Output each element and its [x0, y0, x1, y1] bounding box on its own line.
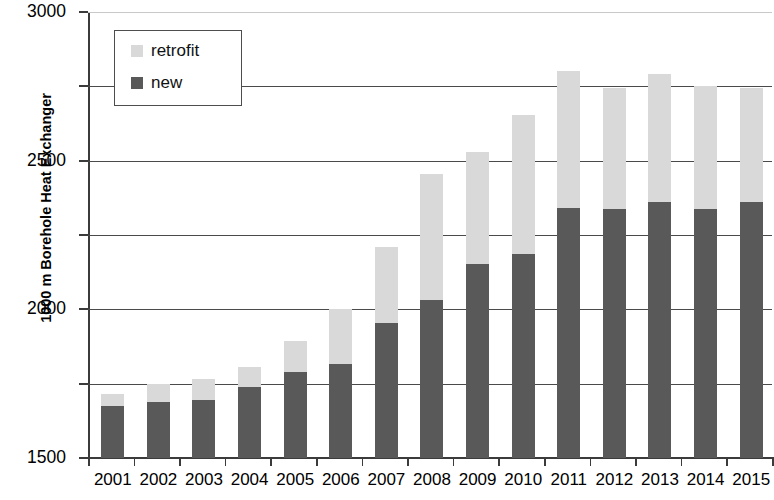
x-tick-2003	[179, 457, 181, 466]
bar-segment-retrofit-2010	[512, 115, 535, 254]
bar-segment-retrofit-2003	[192, 379, 215, 400]
bar-slot-2011	[544, 12, 590, 458]
bar-segment-retrofit-2004	[238, 367, 261, 388]
bar-segment-retrofit-2002	[147, 384, 170, 402]
bar-segment-new-2007	[375, 323, 398, 458]
x-axis-label-2008: 2008	[413, 470, 451, 490]
bar-slot-2006	[316, 12, 362, 458]
stacked-bar-2003[interactable]	[192, 379, 215, 458]
stacked-bar-2007[interactable]	[375, 247, 398, 458]
x-tick-2004	[225, 457, 227, 466]
y-tick-label-3000: 3000	[27, 1, 66, 22]
x-axis-label-2006: 2006	[322, 470, 360, 490]
bar-segment-retrofit-2005	[284, 341, 307, 372]
bar-segment-new-2013	[648, 202, 671, 458]
bar-segment-retrofit-2007	[375, 247, 398, 324]
stacked-bar-2008[interactable]	[420, 174, 443, 458]
x-tick-2011	[544, 457, 546, 466]
x-axis-label-2009: 2009	[459, 470, 497, 490]
stacked-bar-2001[interactable]	[101, 394, 124, 458]
bar-segment-retrofit-2012	[603, 88, 626, 209]
legend-item-new[interactable]: new	[131, 74, 182, 91]
bar-segment-new-2003	[192, 400, 215, 458]
bar-slot-2014	[681, 12, 727, 458]
x-axis-label-2001: 2001	[94, 470, 132, 490]
bar-segment-new-2014	[694, 209, 717, 458]
bar-slot-2012	[590, 12, 636, 458]
stacked-bar-2010[interactable]	[512, 115, 535, 458]
chart-root: 1000 m Borehole Heat Exchanger 050010001…	[0, 0, 774, 500]
legend-label-new: new	[151, 74, 182, 91]
y-tick-1500: 1500	[79, 234, 88, 236]
chart-legend: retrofit new	[114, 30, 242, 106]
stacked-bar-2005[interactable]	[284, 341, 307, 458]
x-axis-label-2014: 2014	[687, 470, 725, 490]
bar-segment-new-2001	[101, 406, 124, 458]
y-tick-1000: 1000	[79, 308, 88, 310]
x-axis-label-2010: 2010	[504, 470, 542, 490]
stacked-bar-2012[interactable]	[603, 88, 626, 458]
legend-label-retrofit: retrofit	[151, 42, 199, 59]
x-axis-label-2007: 2007	[367, 470, 405, 490]
bar-slot-2013	[635, 12, 681, 458]
y-tick-label-2000: 2000	[27, 298, 66, 319]
bar-segment-new-2008	[420, 300, 443, 458]
stacked-bar-2002[interactable]	[147, 384, 170, 458]
y-tick-2500: 2500	[79, 85, 88, 87]
x-axis-label-2013: 2013	[641, 470, 679, 490]
bar-segment-new-2006	[329, 364, 352, 458]
x-axis-label-2011: 2011	[551, 470, 588, 490]
bar-segment-new-2015	[740, 202, 763, 458]
bar-slot-2005	[270, 12, 316, 458]
bar-slot-2009	[453, 12, 499, 458]
legend-item-retrofit[interactable]: retrofit	[131, 42, 199, 59]
bar-segment-new-2010	[512, 254, 535, 458]
stacked-bar-2006[interactable]	[329, 309, 352, 458]
x-tick-2007	[362, 457, 364, 466]
stacked-bar-2013[interactable]	[648, 74, 671, 458]
x-tick-2002	[134, 457, 136, 466]
stacked-bar-2004[interactable]	[238, 367, 261, 458]
x-axis-label-2012: 2012	[595, 470, 633, 490]
x-tick-2012	[590, 457, 592, 466]
bar-segment-retrofit-2011	[557, 71, 580, 208]
x-tick-2001	[88, 457, 90, 466]
x-tick-2013	[635, 457, 637, 466]
bar-segment-retrofit-2006	[329, 309, 352, 363]
x-axis-label-2015: 2015	[732, 470, 770, 490]
stacked-bar-2009[interactable]	[466, 152, 489, 458]
x-axis-label-2005: 2005	[276, 470, 314, 490]
x-axis-label-2002: 2002	[139, 470, 177, 490]
y-tick-3000: 3000	[79, 11, 88, 13]
bar-segment-new-2009	[466, 264, 489, 458]
bar-segment-new-2011	[557, 208, 580, 458]
x-tick-2014	[681, 457, 683, 466]
legend-swatch-new-icon	[131, 77, 143, 89]
stacked-bar-2014[interactable]	[694, 86, 717, 458]
bar-segment-new-2002	[147, 402, 170, 458]
bar-segment-new-2012	[603, 209, 626, 458]
x-tick-2009	[453, 457, 455, 466]
stacked-bar-2011[interactable]	[557, 71, 580, 458]
bar-slot-2007	[362, 12, 408, 458]
y-tick-2000: 2000	[79, 160, 88, 162]
x-tick-2005	[270, 457, 272, 466]
y-tick-500: 500	[79, 383, 88, 385]
bar-slot-2010	[498, 12, 544, 458]
x-tick-2008	[407, 457, 409, 466]
x-axis-label-2003: 2003	[185, 470, 223, 490]
x-axis-label-2004: 2004	[231, 470, 269, 490]
bar-segment-new-2004	[238, 387, 261, 458]
bar-segment-retrofit-2013	[648, 74, 671, 201]
bar-segment-retrofit-2008	[420, 174, 443, 300]
y-tick-label-1500: 1500	[27, 447, 66, 468]
x-tick-2015	[726, 457, 728, 466]
stacked-bar-2015[interactable]	[740, 88, 763, 458]
bar-segment-retrofit-2009	[466, 152, 489, 264]
x-tick-2006	[316, 457, 318, 466]
x-tick-end	[772, 457, 774, 466]
bar-segment-retrofit-2014	[694, 86, 717, 209]
y-tick-0: 0	[79, 457, 88, 459]
bar-segment-retrofit-2001	[101, 394, 124, 406]
bar-segment-new-2005	[284, 372, 307, 458]
